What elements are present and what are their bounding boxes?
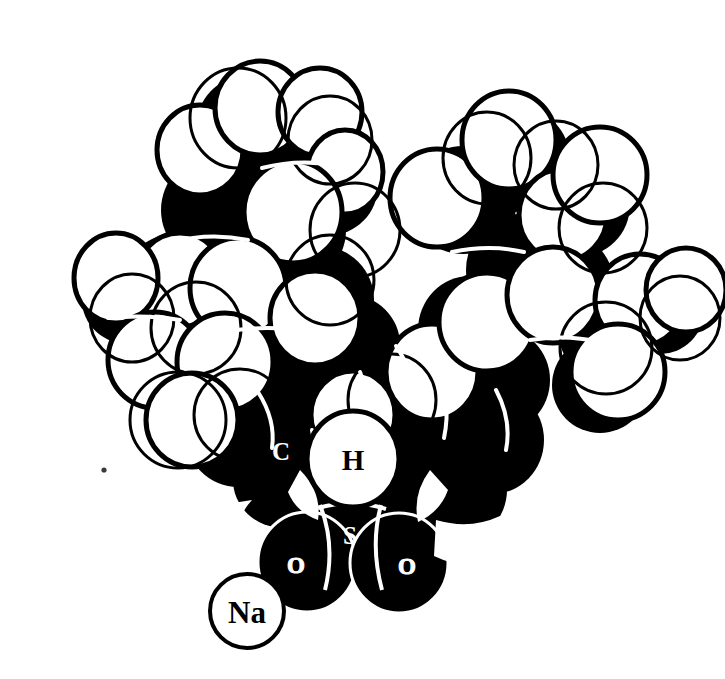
ink-speck: [101, 467, 106, 472]
label-carbon: C: [272, 438, 290, 465]
label-sodium: Na: [228, 595, 266, 630]
label-sulfur: S: [343, 522, 357, 549]
hydrogen-sphere: [270, 271, 360, 365]
label-oxygen-right: O: [398, 554, 416, 579]
hydrogen-sphere: [507, 247, 599, 343]
hydrogen-sphere: [646, 248, 725, 332]
label-hydrogen: H: [342, 444, 365, 476]
hydrogen-sphere: [146, 373, 238, 467]
molecule-figure: C S O O H Na: [0, 0, 725, 679]
sodium-ion: Na: [210, 574, 284, 648]
molecule-drawing: C S O O H Na: [0, 0, 725, 679]
hydrogen-labeled-sphere: H: [307, 411, 399, 507]
label-oxygen-left: O: [287, 553, 305, 578]
